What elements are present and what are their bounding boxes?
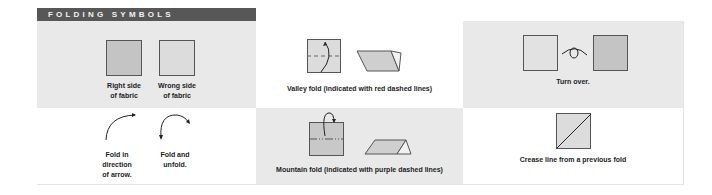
cell-fold-arrows: Fold indirectionof arrow. Fold andunfold… [37, 108, 256, 184]
turn-over-icon [523, 35, 633, 75]
fold-unfold-label: Fold andunfold. [150, 150, 200, 170]
fold-unfold-arrow-icon [157, 112, 197, 142]
fold-direction-label: Fold indirectionof arrow. [92, 150, 142, 180]
wrong-side-label: Wrong sideof fabric [147, 81, 207, 101]
crease-line-icon [556, 113, 592, 149]
turn-over-label: Turn over. [463, 77, 683, 87]
wrong-side-square-icon [159, 40, 195, 76]
curved-arrow-icon [103, 112, 143, 142]
cell-valley-fold: Valley fold (indicated with red dashed l… [256, 21, 463, 108]
cell-turn-over: Turn over. [463, 21, 683, 108]
section-header: FOLDING SYMBOLS [37, 8, 256, 21]
valley-fold-icon [307, 39, 417, 79]
mountain-fold-icon [309, 110, 419, 160]
right-side-label: Right sideof fabric [94, 81, 154, 101]
cell-mountain-fold: Mountain fold (indicated with purple das… [256, 108, 463, 184]
cell-fabric-sides: Right sideof fabric Wrong sideof fabric [37, 21, 256, 108]
crease-line-label: Crease line from a previous fold [463, 155, 683, 165]
right-side-square-icon [106, 40, 142, 76]
mountain-fold-label: Mountain fold (indicated with purple das… [256, 165, 463, 175]
valley-fold-label: Valley fold (indicated with red dashed l… [256, 84, 463, 94]
cell-crease-line: Crease line from a previous fold [463, 108, 683, 184]
folding-symbols-grid: Right sideof fabric Wrong sideof fabric … [37, 21, 684, 185]
